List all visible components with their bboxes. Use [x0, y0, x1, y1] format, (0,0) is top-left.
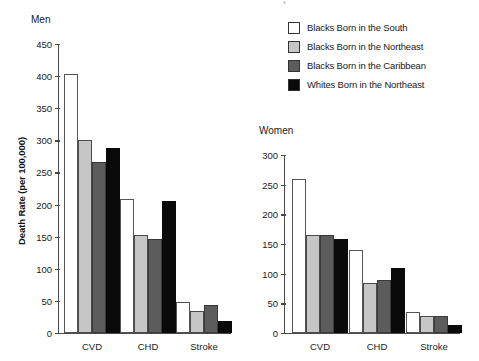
y-axis-tick-label: 300 [250, 150, 278, 161]
x-axis-line [58, 333, 231, 334]
plot-area-men: 050100150200250300350400450CVDCHDStroke [58, 44, 223, 333]
y-axis-tick-label: 50 [24, 295, 52, 306]
bar-chd-s1 [363, 283, 377, 333]
y-axis-tick-label: 150 [250, 239, 278, 250]
bar-cvd-s3 [106, 148, 120, 333]
bar-stroke-s3 [218, 321, 232, 333]
y-axis-tick [55, 140, 60, 141]
bar-chd-s1 [134, 235, 148, 333]
y-axis-tick [281, 185, 286, 186]
y-axis-tick-label: 300 [24, 135, 52, 146]
y-axis-tick [55, 269, 60, 270]
y-axis-tick [55, 205, 60, 206]
y-axis-tick [281, 214, 286, 215]
figure-grouped-bar-charts: Blacks Born in the South Blacks Born in … [0, 0, 479, 361]
y-axis-tick-label: 0 [250, 328, 278, 339]
bar-cvd-s1 [78, 140, 92, 333]
panel-title-women: Women [259, 125, 293, 136]
plot-area-women: 050100150200250300CVDCHDStroke [284, 155, 452, 333]
y-axis-tick-label: 0 [24, 328, 52, 339]
bar-chd-s0 [349, 250, 363, 333]
y-axis-tick [281, 303, 286, 304]
y-axis-tick [55, 44, 60, 45]
x-axis-category-label: Stroke [420, 341, 447, 352]
x-axis-category-label: CHD [138, 341, 159, 352]
y-axis-tick-label: 250 [250, 179, 278, 190]
y-axis-tick-label: 150 [24, 231, 52, 242]
x-axis-category-label: CVD [82, 341, 102, 352]
y-axis-tick [55, 108, 60, 109]
x-axis-category-label: CHD [367, 341, 388, 352]
bar-chd-s2 [377, 280, 391, 333]
y-axis-tick [55, 76, 60, 77]
y-axis-tick [55, 172, 60, 173]
y-axis-tick [281, 244, 286, 245]
y-axis-tick [281, 333, 286, 334]
bar-stroke-s1 [190, 311, 204, 333]
bar-cvd-s1 [306, 235, 320, 333]
y-axis-tick-label: 350 [24, 103, 52, 114]
x-axis-category-label: Stroke [190, 341, 217, 352]
bar-stroke-s2 [434, 316, 448, 333]
y-axis-tick-label: 450 [24, 39, 52, 50]
bar-stroke-s1 [420, 316, 434, 333]
bar-chd-s2 [148, 239, 162, 333]
bar-cvd-s0 [292, 179, 306, 333]
bar-cvd-s3 [334, 239, 348, 333]
bar-stroke-s0 [406, 312, 420, 333]
y-axis-line [58, 44, 59, 333]
bar-chd-s3 [162, 201, 176, 333]
y-axis-tick-label: 200 [250, 209, 278, 220]
y-axis-tick [281, 155, 286, 156]
bar-stroke-s3 [448, 325, 462, 333]
y-axis-tick [55, 301, 60, 302]
panel-women: Women 050100150200250300CVDCHDStroke [240, 0, 479, 361]
bar-cvd-s2 [92, 162, 106, 333]
y-axis-tick [55, 237, 60, 238]
bar-chd-s3 [391, 268, 405, 333]
y-axis-tick-label: 100 [24, 263, 52, 274]
y-axis-tick-label: 200 [24, 199, 52, 210]
bar-cvd-s2 [320, 235, 334, 333]
panel-title-men: Men [31, 14, 50, 25]
bar-cvd-s0 [64, 74, 78, 333]
y-axis-tick-label: 250 [24, 167, 52, 178]
y-axis-tick [281, 274, 286, 275]
bar-stroke-s0 [176, 302, 190, 333]
panel-men: Men 050100150200250300350400450CVDCHDStr… [0, 0, 240, 361]
y-axis-tick-label: 100 [250, 268, 278, 279]
y-axis-tick [55, 333, 60, 334]
bar-stroke-s2 [204, 305, 218, 333]
y-axis-tick-label: 50 [250, 298, 278, 309]
y-axis-tick-label: 400 [24, 71, 52, 82]
x-axis-category-label: CVD [310, 341, 330, 352]
bar-chd-s0 [120, 199, 134, 333]
x-axis-line [284, 333, 460, 334]
